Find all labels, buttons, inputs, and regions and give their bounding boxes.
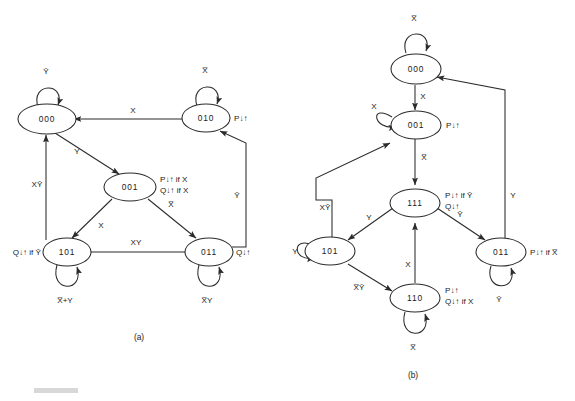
edge-b-101-001 (316, 143, 390, 238)
self-loop-label-b-011: Ȳ (496, 295, 502, 304)
self-loop-label-b-000: X̅ (411, 14, 417, 23)
self-loop-label-b-101: Y (292, 247, 298, 256)
output-label-b-011: P↓↑ if X̅ (530, 248, 558, 257)
edge-label-b-011-000: Y (510, 191, 516, 200)
state-node-a-010[interactable]: 010 P↓↑ (182, 104, 248, 132)
edge-label-a-000-001: Y (74, 147, 80, 156)
state-label-a-001: 001 (122, 182, 139, 192)
output-label-b-111-1: P↓↑ if Ȳ (445, 191, 473, 200)
state-node-b-011[interactable]: 011 P↓↑ if X̅ (476, 238, 558, 266)
diagram-a-group: X Y X X̅ XY Ȳ XȲ Ȳ X̅ X̅+Y X̅Y (13, 66, 251, 342)
self-loop-label-b-110: X̅ (410, 343, 416, 352)
edge-label-a-010-000: X (130, 106, 136, 115)
self-loop-label-a-000: Ȳ (43, 67, 49, 76)
state-label-b-101: 101 (322, 246, 339, 256)
edge-label-b-110-111: X (405, 260, 411, 269)
self-loop-label-a-101: X̅+Y (57, 296, 73, 305)
state-node-b-001[interactable]: 001 P↓↑ (391, 111, 460, 139)
edge-label-b-001-111: X̅ (421, 153, 427, 162)
edge-label-a-011-010: Ȳ (234, 191, 240, 200)
state-label-b-001: 001 (408, 120, 425, 130)
output-label-a-010: P↓↑ (234, 114, 248, 123)
edge-label-a-011-101: XY (131, 238, 142, 247)
state-node-a-000[interactable]: 000 (18, 104, 76, 134)
self-loop-a-010 (196, 87, 218, 106)
state-label-b-110: 110 (407, 293, 423, 303)
output-label-b-110-1: P↓↑ (445, 286, 459, 295)
state-label-b-000: 000 (408, 64, 425, 74)
output-label-a-001-1: P↓↑ if X (160, 175, 188, 184)
self-loop-label-a-011: X̅Y (201, 296, 213, 305)
edge-label-b-101-110: X̅Ȳ (353, 283, 365, 292)
state-label-a-101: 101 (59, 247, 76, 257)
caption-a: (a) (134, 332, 144, 342)
state-label-b-111: 111 (407, 198, 422, 208)
caption-b: (b) (408, 370, 418, 380)
output-label-a-001-2: Q↓↑ if X (160, 186, 189, 195)
edge-label-b-111-101: Y (366, 213, 372, 222)
state-label-a-011: 011 (201, 247, 217, 257)
state-label-a-010: 010 (198, 113, 215, 123)
self-loop-b-110 (404, 312, 426, 333)
edge-label-b-111-011: Ȳ (457, 210, 463, 219)
state-diagram-figure: X Y X X̅ XY Ȳ XȲ Ȳ X̅ X̅+Y X̅Y (0, 0, 575, 401)
output-label-a-101: Q↓↑ if Ȳ (13, 248, 42, 257)
edge-label-a-101-000: XȲ (32, 180, 43, 189)
output-label-b-001: P↓↑ (446, 121, 460, 130)
figure-container: X Y X X̅ XY Ȳ XȲ Ȳ X̅ X̅+Y X̅Y (0, 0, 575, 401)
state-node-a-001[interactable]: 001 P↓↑ if X Q↓↑ if X (104, 173, 189, 201)
self-loop-b-011 (490, 266, 512, 286)
state-label-a-000: 000 (39, 114, 56, 124)
edge-label-b-101-001: XȲ (320, 203, 331, 212)
self-loop-label-a-010: X̅ (202, 66, 208, 75)
state-node-a-101[interactable]: 101 Q↓↑ if Ȳ (13, 238, 91, 266)
edge-label-a-001-101: X (98, 221, 104, 230)
output-label-b-111-2: Q↓↑ (445, 202, 459, 211)
state-label-b-011: 011 (493, 247, 509, 257)
output-label-a-011: Q↓↑ (236, 248, 250, 257)
self-loop-a-101 (56, 265, 78, 286)
edge-a-001-101 (72, 199, 112, 238)
self-loop-b-000 (405, 34, 427, 53)
state-node-a-011[interactable]: 011 Q↓↑ (185, 238, 250, 266)
self-loop-a-011 (198, 265, 220, 286)
output-label-b-110-2: Q↓↑ if X (445, 297, 474, 306)
diagram-b-group: X X̅ Y Ȳ XȲ X̅Ȳ X Y X̅ X Y X̅ (292, 14, 558, 380)
edge-a-000-001 (55, 133, 119, 174)
edge-label-a-001-011: X̅ (168, 200, 174, 209)
figure-footer-mark (34, 388, 78, 393)
state-node-b-000[interactable]: 000 (391, 54, 441, 84)
state-node-b-101[interactable]: 101 (305, 237, 355, 265)
self-loop-label-b-001: X (371, 102, 377, 111)
state-node-b-110[interactable]: 110 P↓↑ Q↓↑ if X (390, 284, 474, 312)
edge-a-011-010 (220, 131, 246, 247)
edge-label-b-000-001: X (420, 92, 426, 101)
